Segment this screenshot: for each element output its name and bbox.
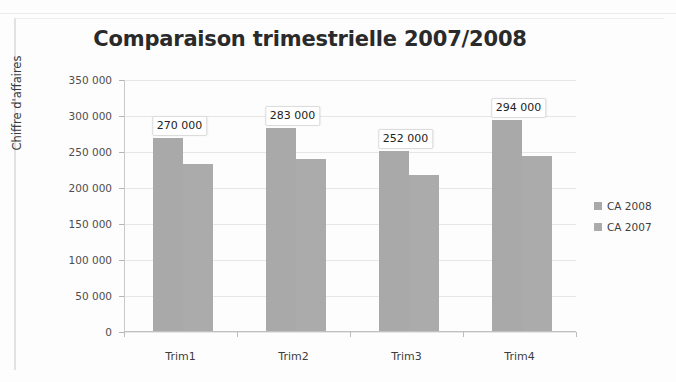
x-axis-tick-mark <box>463 332 464 337</box>
y-axis-tick-label: 200 000 <box>42 182 112 194</box>
data-label: 294 000 <box>491 98 547 118</box>
x-axis-category-label: Trim2 <box>278 350 308 363</box>
data-label: 252 000 <box>378 129 434 149</box>
bar-trim2-ca-2007 <box>296 159 326 332</box>
data-label: 283 000 <box>265 106 321 126</box>
legend-swatch-icon <box>594 202 602 210</box>
x-axis-tick-mark <box>237 332 238 337</box>
chart-title: Comparaison trimestrielle 2007/2008 <box>60 27 560 51</box>
y-axis-tick-label: 100 000 <box>42 254 112 266</box>
legend-swatch-icon <box>594 223 602 231</box>
y-axis-tick-label: 150 000 <box>42 218 112 230</box>
data-label: 270 000 <box>152 116 208 136</box>
y-axis-tick-mark <box>119 152 124 153</box>
bar-trim1-ca-2008 <box>153 138 183 332</box>
page-top-rule <box>0 13 676 14</box>
legend-item-ca-2007[interactable]: CA 2007 <box>594 221 652 233</box>
bar-trim1-ca-2007 <box>183 164 213 332</box>
x-axis-category-label: Trim1 <box>165 350 195 363</box>
legend-label: CA 2007 <box>607 221 652 233</box>
y-axis-title: Chiffre d'affaires <box>10 18 24 188</box>
y-axis-tick-mark <box>119 188 124 189</box>
y-axis-tick-label: 50 000 <box>42 290 112 302</box>
x-axis-tick-mark <box>124 332 125 337</box>
chart-screenshot: Comparaison trimestrielle 2007/2008 050 … <box>0 0 676 382</box>
bar-trim4-ca-2008 <box>492 120 522 332</box>
legend-label: CA 2008 <box>607 200 652 212</box>
bar-trim4-ca-2007 <box>522 156 552 332</box>
y-axis-tick-mark <box>119 260 124 261</box>
legend-item-ca-2008[interactable]: CA 2008 <box>594 200 652 212</box>
chart-legend: CA 2008CA 2007 <box>594 200 652 242</box>
x-axis-category-label: Trim3 <box>391 350 421 363</box>
y-axis-tick-label: 350 000 <box>42 74 112 86</box>
y-axis-tick-mark <box>119 80 124 81</box>
y-axis-tick-label: 0 <box>42 326 112 338</box>
y-axis-tick-mark <box>119 224 124 225</box>
plot-area: 050 000100 000150 000200 000250 000300 0… <box>124 80 576 332</box>
gridline <box>124 80 576 81</box>
bar-trim3-ca-2007 <box>409 175 439 332</box>
y-axis-tick-mark <box>119 296 124 297</box>
x-axis-tick-mark <box>350 332 351 337</box>
x-axis-category-label: Trim4 <box>504 350 534 363</box>
bar-trim2-ca-2008 <box>266 128 296 332</box>
y-axis-tick-label: 300 000 <box>42 110 112 122</box>
y-axis-tick-mark <box>119 116 124 117</box>
bar-trim3-ca-2008 <box>379 151 409 332</box>
y-axis-tick-label: 250 000 <box>42 146 112 158</box>
x-axis-tick-mark <box>576 332 577 337</box>
